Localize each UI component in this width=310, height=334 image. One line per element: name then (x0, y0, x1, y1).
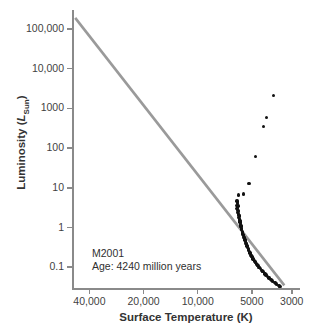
y-tick-label-wrap: 10,000 (0, 63, 64, 73)
y-axis-label-prefix: Luminosity ( (15, 121, 27, 189)
y-axis-label-symbol: L (15, 114, 27, 121)
zams-line-layer (0, 0, 310, 334)
star-data-point (274, 281, 277, 284)
star-data-point (237, 193, 240, 196)
y-tick-label: 100 (0, 142, 64, 152)
y-tick-label: 10,000 (0, 63, 64, 73)
y-axis-label: Luminosity (LSun) (15, 68, 30, 218)
y-tick-label-wrap: 1 (0, 222, 64, 232)
y-tick-mark (67, 187, 72, 189)
y-tick-label-wrap: 0.1 (0, 261, 64, 271)
y-tick-label: 10 (0, 182, 64, 192)
star-data-point (247, 182, 250, 185)
x-tick-mark (251, 289, 253, 294)
star-data-point (238, 219, 241, 222)
y-tick-label-wrap: 100 (0, 142, 64, 152)
cluster-name: M2001 (92, 247, 201, 260)
y-tick-label: 0.1 (0, 261, 64, 271)
y-tick-label-wrap: 1000 (0, 102, 64, 112)
hr-diagram-figure: 100,00010,00010001001010.1 40,00020,0001… (0, 0, 310, 334)
star-data-point (242, 192, 245, 195)
x-axis-label: Surface Temperature (K) (72, 311, 300, 323)
star-data-point (263, 272, 266, 275)
zams-line (75, 18, 284, 285)
y-tick-mark (67, 227, 72, 229)
y-axis-label-subscript: Sun (22, 99, 31, 114)
y-tick-label: 1000 (0, 102, 64, 112)
star-data-point (254, 155, 257, 158)
x-tick-mark (291, 289, 293, 294)
y-axis-label-suffix: ) (15, 95, 27, 99)
plot-annotation: M2001 Age: 4240 million years (92, 247, 201, 273)
x-tick-mark (89, 289, 91, 294)
star-data-point (238, 214, 241, 217)
y-tick-label: 100,000 (0, 23, 64, 33)
y-tick-mark (67, 147, 72, 149)
y-tick-label-wrap: 100,000 (0, 23, 64, 33)
x-tick-mark (143, 289, 145, 294)
y-tick-mark (67, 28, 72, 30)
y-tick-label: 1 (0, 222, 64, 232)
star-data-point (236, 204, 239, 207)
y-tick-mark (67, 68, 72, 70)
y-tick-mark (67, 266, 72, 268)
y-tick-label-wrap: 10 (0, 182, 64, 192)
cluster-age: Age: 4240 million years (92, 260, 201, 273)
x-tick-mark (197, 289, 199, 294)
x-tick-label: 3000 (257, 296, 310, 307)
y-tick-mark (67, 108, 72, 110)
star-data-point (278, 284, 281, 287)
